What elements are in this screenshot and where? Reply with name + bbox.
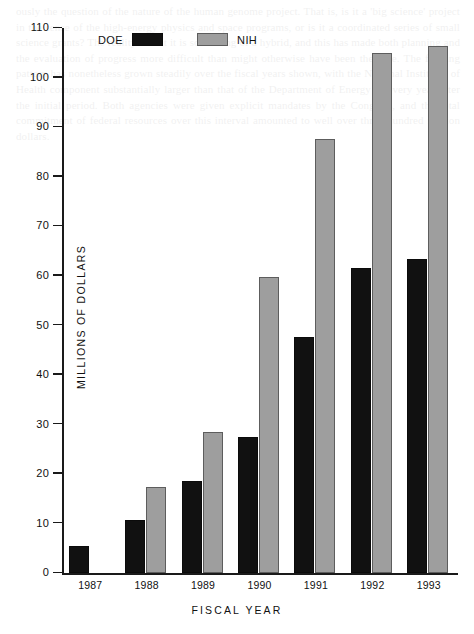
bar-group-1992: [351, 28, 392, 573]
y-axis-tick-label: 90: [36, 120, 49, 132]
y-axis-tick-110: 110: [53, 27, 62, 29]
bar-group-1990: [238, 28, 279, 573]
legend-label-doe: DOE: [98, 34, 123, 46]
legend-swatch-nih: [197, 33, 228, 46]
y-axis-tick-100: 100: [53, 76, 62, 78]
x-axis-tick-label-1991: 1991: [288, 579, 344, 591]
bar-doe-1990: [238, 437, 258, 573]
bar-doe-1991: [294, 337, 314, 573]
x-axis-tick-label-1987: 1987: [62, 579, 118, 591]
y-axis-tick-90: 90: [53, 126, 62, 128]
y-axis-tick-label: 110: [31, 21, 49, 33]
legend-item-doe: DOE: [98, 33, 163, 46]
bar-nih-1992: [372, 53, 392, 573]
x-axis-tick-label-1992: 1992: [344, 579, 400, 591]
bar-nih-1991: [315, 139, 335, 574]
y-axis-tick-70: 70: [53, 225, 62, 227]
y-axis-tick-label: 70: [36, 219, 49, 231]
bar-group-1991: [294, 28, 335, 573]
y-axis-tick-label: 50: [36, 319, 49, 331]
bar-nih-1990: [259, 277, 279, 573]
y-axis-tick-label: 20: [36, 467, 49, 479]
y-axis-tick-0: 0: [53, 572, 62, 574]
x-axis-tick-label-1993: 1993: [401, 579, 457, 591]
bar-nih-1989: [203, 432, 223, 573]
chart-legend: DOE NIH: [98, 33, 257, 46]
y-axis-tick-label: 80: [36, 170, 49, 182]
bar-nih-1988: [146, 487, 166, 573]
y-axis-tick-80: 80: [53, 175, 62, 177]
x-axis-line: [62, 573, 458, 575]
y-axis-tick-20: 20: [53, 472, 62, 474]
y-axis-tick-label: 10: [36, 517, 49, 529]
bar-group-1989: [182, 28, 223, 573]
x-axis-title: FISCAL YEAR: [0, 604, 474, 616]
y-axis-tick-60: 60: [53, 274, 62, 276]
bar-doe-1993: [407, 259, 427, 573]
y-axis-tick-label: 0: [43, 566, 49, 578]
y-axis-tick-40: 40: [53, 373, 62, 375]
y-axis-tick-label: 30: [36, 418, 49, 430]
y-axis-tick-label: 60: [36, 269, 49, 281]
y-axis-tick-label: 40: [36, 368, 49, 380]
bar-chart-figure: MILLIONS OF DOLLARS FISCAL YEAR 01020304…: [0, 0, 474, 634]
x-axis-tick-label-1989: 1989: [175, 579, 231, 591]
y-axis-tick-30: 30: [53, 423, 62, 425]
x-axis-tick-label-1988: 1988: [118, 579, 174, 591]
y-axis-tick-50: 50: [53, 324, 62, 326]
bar-group-1993: [407, 28, 448, 573]
bar-doe-1988: [125, 520, 145, 573]
plot-area: 0102030405060708090100110: [62, 28, 457, 573]
x-axis-tick-label-1990: 1990: [231, 579, 287, 591]
bar-doe-1989: [182, 481, 202, 573]
bar-group-1987: [69, 28, 110, 573]
legend-item-nih: NIH: [197, 33, 257, 46]
bar-doe-1992: [351, 268, 371, 573]
legend-label-nih: NIH: [237, 34, 257, 46]
bar-doe-1987: [69, 546, 89, 573]
y-axis-tick-label: 100: [30, 71, 49, 83]
legend-swatch-doe: [132, 33, 163, 46]
bar-nih-1993: [428, 46, 448, 573]
y-axis-tick-10: 10: [53, 522, 62, 524]
bar-group-1988: [125, 28, 166, 573]
